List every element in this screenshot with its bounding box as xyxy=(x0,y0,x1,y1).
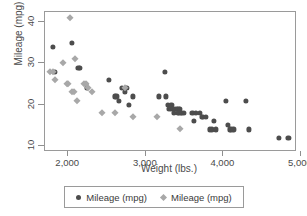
data-point-series-2 xyxy=(98,109,106,117)
data-point-series-1 xyxy=(116,98,121,103)
data-point-series-2 xyxy=(51,76,59,84)
data-point-series-2 xyxy=(73,97,81,105)
diamond-marker-icon xyxy=(160,193,167,200)
data-point-series-1 xyxy=(246,127,251,132)
data-point-series-2 xyxy=(129,113,137,121)
legend-entry-series-1[interactable]: Mileage (mpg) xyxy=(76,192,147,203)
legend-label-series-2: Mileage (mpg) xyxy=(171,192,232,203)
data-point-series-1 xyxy=(77,65,82,70)
y-tick-label-wrap: 10 xyxy=(24,139,36,151)
data-point-series-1 xyxy=(191,119,196,124)
data-point-series-1 xyxy=(277,135,282,140)
data-point-series-2 xyxy=(88,88,96,96)
data-point-series-1 xyxy=(106,77,111,82)
y-tick-label-wrap: 40 xyxy=(24,15,36,27)
data-point-series-2 xyxy=(154,113,162,121)
x-tick-mark xyxy=(222,151,223,156)
data-point-series-1 xyxy=(126,102,131,107)
data-point-series-1 xyxy=(181,110,186,115)
data-point-series-1 xyxy=(163,69,168,74)
y-tick-label: 10 xyxy=(25,140,36,151)
legend-entry-series-2[interactable]: Mileage (mpg) xyxy=(161,192,232,203)
data-point-series-2 xyxy=(111,109,119,117)
data-point-series-1 xyxy=(70,40,75,45)
y-tick-label: 20 xyxy=(25,98,36,109)
y-axis-title: Mileage (mpg) xyxy=(13,0,24,94)
data-point-series-1 xyxy=(163,94,168,99)
x-axis-title: Weight (lbs.) xyxy=(40,163,298,174)
y-tick-label: 30 xyxy=(25,57,36,68)
data-point-series-1 xyxy=(204,114,209,119)
y-tick-label: 40 xyxy=(25,16,36,27)
plot-area xyxy=(45,12,295,150)
data-point-series-1 xyxy=(156,94,161,99)
data-point-series-2 xyxy=(71,56,79,64)
data-point-series-1 xyxy=(231,127,236,132)
x-tick-mark xyxy=(300,151,301,156)
x-tick-mark xyxy=(67,151,68,156)
data-point-series-1 xyxy=(213,127,218,132)
data-point-series-1 xyxy=(223,98,228,103)
data-point-series-1 xyxy=(130,94,135,99)
chart-legend: Mileage (mpg) Mileage (mpg) xyxy=(64,186,244,208)
scatter-chart: Mileage (mpg) 10203040 2,0003,0004,0005,… xyxy=(0,0,307,216)
y-tick-label-wrap: 30 xyxy=(24,56,36,68)
x-tick-mark xyxy=(145,151,146,156)
data-point-series-2 xyxy=(66,14,74,22)
data-point-series-1 xyxy=(286,135,291,140)
data-point-series-1 xyxy=(50,44,55,49)
circle-marker-icon xyxy=(76,195,81,200)
data-point-series-2 xyxy=(59,60,67,68)
data-point-series-1 xyxy=(211,119,216,124)
legend-label-series-1: Mileage (mpg) xyxy=(86,192,147,203)
plot-frame xyxy=(44,11,296,151)
data-point-series-2 xyxy=(176,126,184,134)
y-tick-label-wrap: 20 xyxy=(24,98,36,110)
data-point-series-1 xyxy=(243,98,248,103)
